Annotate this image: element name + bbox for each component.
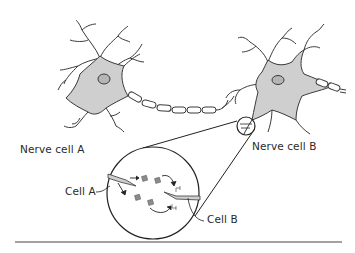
nerve-cell-diagram: [0, 0, 355, 253]
magnified-synapse-inset: [96, 147, 204, 239]
nerve-cell-a-body: [58, 20, 144, 132]
label-nerve-cell-b: Nerve cell B: [252, 140, 316, 152]
axon-myelin-sheath: [127, 91, 234, 113]
synapse-highlight-circle: [237, 117, 255, 135]
label-nerve-cell-a: Nerve cell A: [20, 143, 84, 155]
label-cell-a: Cell A: [65, 185, 96, 197]
label-cell-b: Cell B: [207, 213, 238, 225]
